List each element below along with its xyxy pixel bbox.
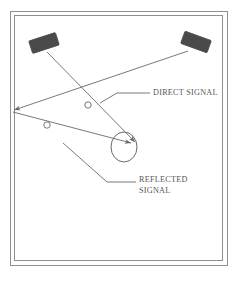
reflected-incoming-beam-line [14, 51, 188, 110]
transmitter-left [29, 32, 60, 53]
direct-signal-marker-icon [85, 102, 91, 108]
reflected-signal-label-line1: REFLECTED [139, 175, 188, 184]
direct-signal-label: DIRECT SIGNAL [153, 88, 218, 97]
reflected-signal-label-line2: SIGNAL [139, 186, 171, 195]
reflected-signal-leader-line [63, 143, 136, 182]
frame-inner-border [15, 16, 223, 261]
direct-signal-beam-line [47, 52, 135, 142]
transmitter-right-body [181, 31, 212, 53]
radar-multipath-figure: DIRECT SIGNAL REFLECTED SIGNAL [0, 0, 243, 286]
target-object [111, 132, 137, 162]
direct-signal-leader-line [100, 93, 150, 103]
reflected-signal-marker-icon [44, 122, 50, 128]
transmitter-left-body [29, 32, 60, 53]
transmitter-right [181, 31, 212, 53]
